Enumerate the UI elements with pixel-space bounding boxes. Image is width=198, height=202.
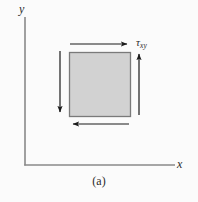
stress-element-square xyxy=(70,53,131,117)
shear-stress-figure: y x τxy (a) xyxy=(0,0,198,202)
figure-canvas xyxy=(0,0,198,202)
x-axis-label: x xyxy=(177,158,182,170)
figure-caption: (a) xyxy=(0,175,198,187)
shear-stress-label: τxy xyxy=(136,37,147,50)
tau-subscript: xy xyxy=(140,41,147,50)
y-axis-label: y xyxy=(19,3,24,15)
